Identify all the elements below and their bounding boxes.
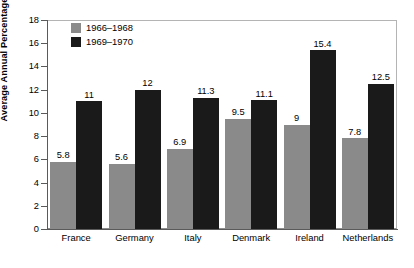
bar-group-ireland: 915.4Ireland (284, 20, 336, 229)
bar-value-label: 11 (84, 90, 94, 100)
y-tick-label-text: 8 (34, 131, 39, 141)
y-tick-14 (41, 66, 47, 67)
bar-value-label: 5.6 (115, 152, 128, 162)
bar-denmark-1969-1970: 11.1 (251, 100, 277, 229)
y-axis-title: Average Annual Percentage Change (0, 0, 13, 139)
y-tick-label-text: 2 (34, 201, 39, 211)
bar-germany-1966-1968: 5.6 (109, 164, 135, 229)
y-tick-label-text: 14 (29, 61, 39, 71)
y-tick-label-text: 0 (34, 224, 39, 234)
y-tick-0 (41, 229, 47, 230)
bar-value-label: 5.8 (57, 150, 70, 160)
bar-value-label: 6.9 (173, 137, 186, 147)
bar-value-label: 11.3 (197, 86, 214, 96)
x-axis-label-denmark: Denmark (232, 232, 270, 243)
bar-group-france: 5.811France (50, 20, 102, 229)
bar-value-label: 12.5 (372, 72, 390, 82)
y-tick-2 (41, 206, 47, 207)
y-tick-18 (41, 20, 47, 21)
bar-netherlands-1966-1968: 7.8 (342, 138, 368, 229)
y-axis-line (47, 20, 48, 230)
bar-netherlands-1969-1970: 12.5 (368, 84, 394, 229)
bar-france-1969-1970: 11 (76, 101, 102, 229)
bar-chart: Average Annual Percentage Change 0246810… (0, 0, 414, 268)
bar-value-label: 9.5 (232, 107, 245, 117)
bar-group-denmark: 9.511.1Denmark (225, 20, 277, 229)
y-tick-10 (41, 113, 47, 114)
x-axis-label-italy: Italy (184, 232, 201, 243)
bar-group-italy: 6.911.3Italy (167, 20, 219, 229)
bar-group-netherlands: 7.812.5Netherlands (342, 20, 394, 229)
x-axis-line (47, 229, 398, 230)
bar-value-label: 11.1 (255, 89, 272, 99)
y-tick-8 (41, 136, 47, 137)
x-axis-label-france: France (62, 232, 91, 243)
y-tick-12 (41, 90, 47, 91)
y-tick-6 (41, 159, 47, 160)
bar-ireland-1969-1970: 15.4 (310, 50, 336, 229)
y-tick-label-text: 10 (29, 108, 39, 118)
bar-value-label: 12 (142, 78, 152, 88)
bar-value-label: 15.4 (313, 39, 331, 49)
bar-ireland-1966-1968: 9 (284, 125, 310, 230)
x-axis-label-netherlands: Netherlands (343, 232, 394, 243)
y-tick-label-text: 16 (29, 38, 39, 48)
y-tick-label-text: 6 (34, 154, 39, 164)
bar-value-label: 7.8 (348, 127, 361, 137)
bar-italy-1969-1970: 11.3 (193, 98, 219, 229)
bar-group-germany: 5.612Germany (109, 20, 161, 229)
y-tick-label-text: 18 (29, 15, 39, 25)
y-tick-label-text: 12 (29, 85, 39, 95)
bar-value-label: 9 (294, 113, 299, 123)
y-tick-4 (41, 183, 47, 184)
bar-italy-1966-1968: 6.9 (167, 149, 193, 229)
bar-germany-1969-1970: 12 (135, 90, 161, 229)
x-axis-label-germany: Germany (115, 232, 154, 243)
bar-france-1966-1968: 5.8 (50, 162, 76, 229)
bar-denmark-1966-1968: 9.5 (225, 119, 251, 229)
x-axis-label-ireland: Ireland (295, 232, 324, 243)
y-tick-16 (41, 43, 47, 44)
y-tick-label-text: 4 (34, 178, 39, 188)
